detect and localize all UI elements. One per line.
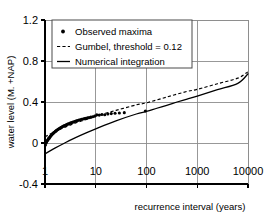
- x-tick-label: 10000: [233, 165, 264, 177]
- x-axis-title: recurrence interval (years): [135, 201, 246, 212]
- x-tick-label: 10: [90, 165, 102, 177]
- observed-maxima-point: [110, 112, 113, 115]
- observed-maxima-point: [103, 113, 106, 116]
- y-tick-label: 0: [32, 137, 38, 149]
- legend-label-observed-maxima: Observed maxima: [75, 26, 153, 37]
- observed-maxima-point: [123, 111, 126, 114]
- observed-maxima-point: [144, 109, 147, 112]
- chart-legend: Observed maxima Gumbel, threshold = 0.12…: [52, 20, 192, 68]
- y-tick-label: -0.4: [19, 178, 38, 190]
- observed-maxima-point: [114, 112, 117, 115]
- observed-maxima-point: [100, 113, 103, 116]
- legend-marker-observed-maxima: [61, 30, 65, 34]
- chart-figure: -0.400.40.81.2 110100100010000 recurrenc…: [0, 0, 270, 223]
- legend-label-gumbel: Gumbel, threshold = 0.12: [75, 41, 182, 52]
- observed-maxima-point: [118, 111, 121, 114]
- legend-label-numerical-integration: Numerical integration: [75, 56, 165, 67]
- y-axis-title: water level (M. +NAP): [5, 56, 16, 150]
- y-tick-label: 0.8: [23, 55, 38, 67]
- y-tick-label: 0.4: [23, 96, 38, 108]
- x-tick-label: 1: [42, 165, 48, 177]
- observed-maxima-point: [106, 112, 109, 115]
- observed-maxima-point: [98, 114, 101, 117]
- recurrence-interval-water-level-chart: -0.400.40.81.2 110100100010000 recurrenc…: [0, 0, 270, 223]
- x-tick-label: 100: [137, 165, 155, 177]
- y-tick-label: 1.2: [23, 14, 38, 26]
- x-tick-label: 1000: [185, 165, 209, 177]
